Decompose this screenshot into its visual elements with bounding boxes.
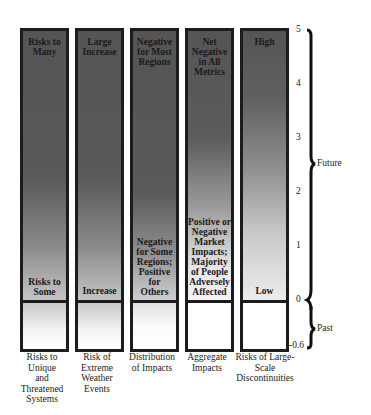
top-label: Negativefor MostRegions [133,37,176,67]
tick-0: 0 [296,294,301,304]
past-gradient [78,303,121,349]
category-label: Risks toUnique andThreatened Systems [12,352,72,405]
past-label: Past [317,323,333,333]
top-label: Risks toMany [23,37,66,57]
tick-2: 2 [296,186,301,196]
bottom-label: Negativefor Some Regions;Positive forOth… [133,237,176,297]
tick-3: 3 [296,132,301,142]
column-distribution: Negativefor MostRegions Negativefor Some… [130,28,179,352]
column-discontinuities: High Low [240,28,289,352]
top-label: NetNegative in AllMetrics [188,37,231,77]
past-gradient [23,303,66,349]
past-gradient [133,303,176,349]
future-label: Future [317,158,342,168]
category-label: Risk ofExtreme WeatherEvents [67,352,127,394]
tick-4: 4 [296,78,301,88]
bottom-label: Risks toSome [23,277,66,297]
column-aggregate: NetNegative in AllMetrics Positive orNeg… [185,28,234,352]
past-gradient [243,303,286,349]
future-gradient: NetNegative in AllMetrics Positive orNeg… [188,31,231,303]
tick-5: 5 [296,24,301,34]
future-gradient: Negativefor MostRegions Negativefor Some… [133,31,176,303]
category-label: Distributionof Impacts [122,352,182,373]
future-gradient: LargeIncrease Increase [78,31,121,303]
tick-1: 1 [296,240,301,250]
bottom-label: Low [243,286,286,296]
past-gradient [188,303,231,349]
column-unique-systems: Risks toMany Risks toSome [20,28,69,352]
brace-icon [304,26,318,352]
bottom-label: Positive orNegative MarketImpacts; Major… [188,217,231,297]
future-gradient: High Low [243,31,286,303]
bottom-label: Increase [78,286,121,296]
category-label: Risks of Large-Scale Discontinuities [227,352,303,384]
top-label: LargeIncrease [78,37,121,57]
column-extreme-weather: LargeIncrease Increase [75,28,124,352]
tick-neg-0-6: -0.6 [289,340,304,350]
future-gradient: Risks toMany Risks toSome [23,31,66,303]
top-label: High [243,37,286,47]
